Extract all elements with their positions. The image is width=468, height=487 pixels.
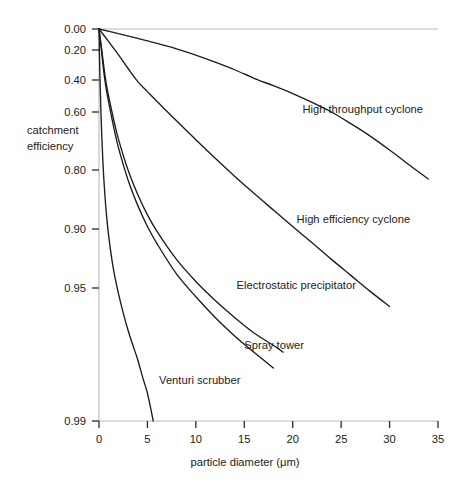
- x-tick-label: 30: [383, 433, 395, 445]
- y-tick-label: 0.80: [64, 164, 86, 176]
- y-tick-label: 0.60: [64, 106, 86, 118]
- x-axis-ticks: 05101520253035: [96, 421, 444, 445]
- curve-label-high-throughput-cyclone: High throughput cyclone: [302, 103, 423, 115]
- curve-high-efficiency-cyclone: [99, 29, 390, 306]
- x-tick-label: 5: [144, 433, 150, 445]
- curve-electrostatic-precipitator: [99, 29, 283, 352]
- x-axis-title: particle diameter (μm): [190, 456, 299, 468]
- curve-label-electrostatic-precipitator: Electrostatic precipitator: [237, 279, 357, 291]
- x-tick-label: 35: [432, 433, 444, 445]
- y-axis-ticks: 0.000.200.400.600.800.900.950.99: [64, 23, 99, 427]
- x-tick-label: 10: [190, 433, 202, 445]
- x-tick-label: 25: [335, 433, 347, 445]
- y-tick-label: 0.00: [64, 23, 86, 35]
- y-tick-label: 0.90: [64, 223, 86, 235]
- chart-container: 0.000.200.400.600.800.900.950.99 0510152…: [0, 0, 468, 487]
- y-tick-label: 0.40: [64, 74, 86, 86]
- y-axis-title-line1: catchment: [27, 124, 80, 136]
- x-tick-label: 15: [238, 433, 250, 445]
- curve-label-spray-tower: Spray tower: [244, 339, 304, 351]
- x-tick-label: 0: [96, 433, 102, 445]
- curve-label-high-efficiency-cyclone: High efficiency cyclone: [297, 213, 411, 225]
- x-tick-label: 20: [286, 433, 298, 445]
- y-tick-label: 0.20: [64, 44, 86, 56]
- catchment-efficiency-chart: 0.000.200.400.600.800.900.950.99 0510152…: [0, 0, 468, 487]
- curve-label-venturi-scrubber: Venturi scrubber: [159, 374, 241, 386]
- y-tick-label: 0.95: [64, 282, 86, 294]
- curve-spray-tower: [99, 29, 273, 368]
- y-axis-title-line2: efficiency: [27, 140, 74, 152]
- y-tick-label: 0.99: [64, 415, 86, 427]
